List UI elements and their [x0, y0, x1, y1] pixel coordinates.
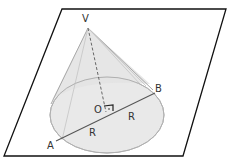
label-center-o: O [94, 104, 102, 115]
label-point-b: B [155, 83, 162, 94]
right-angle-dot [108, 108, 110, 110]
cone-diagram: V O B A R R [0, 0, 231, 159]
label-radius-r1: R [128, 111, 135, 122]
label-radius-r2: R [89, 127, 96, 138]
label-vertex-v: V [82, 13, 89, 24]
label-point-a: A [47, 140, 54, 151]
